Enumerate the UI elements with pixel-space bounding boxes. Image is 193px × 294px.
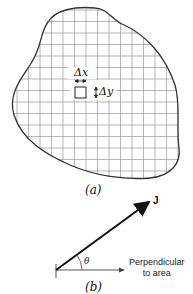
figure-a-caption: (a) (85, 184, 102, 196)
angle-arc (77, 255, 82, 270)
perpendicular-label: Perpendicular to area (129, 257, 185, 279)
delta-y-label: Δy (99, 86, 113, 97)
theta-label: θ (84, 257, 89, 266)
figure-b-caption: (b) (85, 281, 102, 293)
j-vector-label: J (153, 196, 159, 206)
delta-x-label: Δx (74, 67, 88, 78)
perpendicular-label-line1: Perpendicular (129, 257, 185, 268)
perpendicular-label-line2: to area (129, 268, 185, 279)
area-region (0, 0, 193, 190)
